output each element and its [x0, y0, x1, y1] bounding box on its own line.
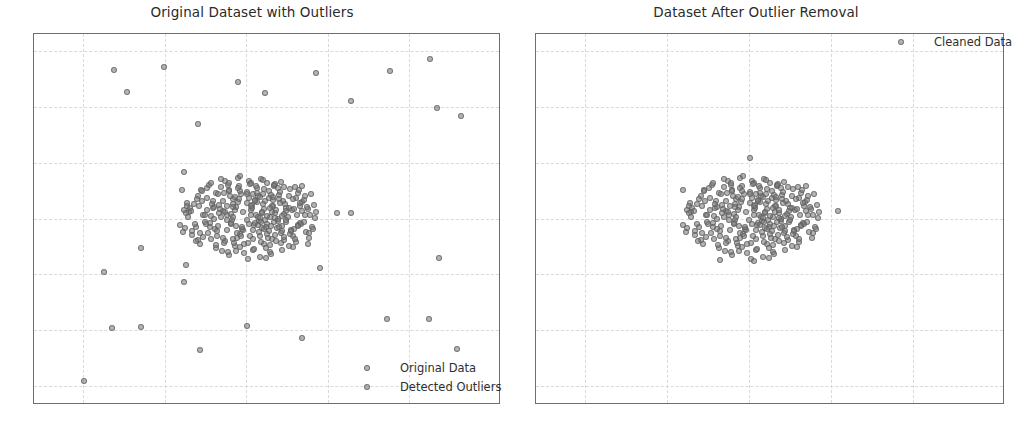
data-point [224, 227, 230, 233]
y-axis-tick-mark [33, 330, 34, 331]
data-point [736, 223, 742, 229]
y-axis-tick-mark [33, 162, 34, 163]
data-point [304, 204, 310, 210]
y-axis-tick-mark [535, 106, 536, 107]
x-axis-tick-label: −2 [156, 403, 173, 404]
page-title: Original Dataset with Outliers [0, 4, 504, 20]
gridline-horizontal [536, 107, 1003, 108]
data-point [271, 219, 277, 225]
data-point [763, 177, 769, 183]
plot-area-original: 6420−2−4−6−4−2024 [33, 33, 500, 404]
data-point [292, 236, 298, 242]
data-point [272, 232, 278, 238]
data-point [213, 242, 219, 248]
data-point [815, 215, 821, 221]
data-point [774, 182, 780, 188]
data-point [199, 188, 205, 194]
data-point [775, 232, 781, 238]
data-point [233, 223, 239, 229]
data-point [348, 210, 354, 216]
data-point [181, 279, 187, 285]
data-point [704, 212, 710, 218]
data-point [111, 67, 117, 73]
data-point [434, 105, 440, 111]
data-point [684, 225, 690, 231]
data-point [281, 184, 287, 190]
data-point [729, 188, 735, 194]
x-axis-tick-mark [409, 403, 410, 404]
x-axis-tick-mark [327, 403, 328, 404]
data-point [197, 230, 203, 236]
data-point [246, 221, 252, 227]
data-point [253, 183, 259, 189]
data-point [747, 200, 753, 206]
data-point [426, 316, 432, 322]
data-point [281, 234, 287, 240]
data-point [262, 90, 268, 96]
data-point [279, 247, 285, 253]
data-point [225, 249, 231, 255]
data-point [721, 184, 727, 190]
data-point [761, 219, 767, 225]
data-point [807, 204, 813, 210]
data-point [811, 191, 817, 197]
data-point [226, 180, 232, 186]
data-point [226, 188, 232, 194]
data-point [182, 225, 188, 231]
data-point [719, 210, 725, 216]
data-point [245, 256, 251, 262]
data-point [727, 227, 733, 233]
data-point [711, 236, 717, 242]
data-point [800, 200, 806, 206]
data-point [754, 246, 760, 252]
data-point [277, 200, 283, 206]
data-point [290, 196, 296, 202]
data-point [751, 212, 757, 218]
data-point [384, 316, 390, 322]
data-point [721, 176, 727, 182]
legend-label: Original Data [400, 361, 476, 375]
data-point [699, 230, 705, 236]
data-point [161, 64, 167, 70]
data-point [794, 206, 800, 212]
data-point [743, 209, 749, 215]
gridline-horizontal [34, 107, 499, 108]
data-point [705, 221, 711, 227]
data-point [737, 185, 743, 191]
data-point [436, 255, 442, 261]
data-point [714, 216, 720, 222]
data-point [742, 224, 748, 230]
data-point [181, 169, 187, 175]
data-point [258, 239, 264, 245]
data-point [278, 240, 284, 246]
data-point [312, 215, 318, 221]
x-axis-tick-label: 0 [242, 403, 249, 404]
page-title-secondary: Dataset After Outlier Removal [504, 4, 1008, 20]
data-point [248, 212, 254, 218]
data-point [299, 335, 305, 341]
data-point [251, 246, 257, 252]
data-point [835, 208, 841, 214]
data-point [779, 224, 785, 230]
data-point [215, 191, 221, 197]
y-axis-tick-mark [535, 162, 536, 163]
data-point [694, 201, 700, 207]
y-axis-tick-mark [535, 274, 536, 275]
y-axis-tick-mark [33, 50, 34, 51]
data-point [715, 242, 721, 248]
data-point [762, 209, 768, 215]
data-point [188, 208, 194, 214]
data-point [235, 185, 241, 191]
data-point [311, 202, 317, 208]
x-axis-tick-label: 4 [909, 403, 916, 404]
data-point [692, 232, 698, 238]
data-point [240, 209, 246, 215]
data-point [735, 194, 741, 200]
y-axis-tick-mark [535, 386, 536, 387]
gridline-horizontal [536, 274, 1003, 275]
data-point [753, 191, 759, 197]
data-point [258, 219, 264, 225]
data-point [208, 180, 214, 186]
data-point [257, 254, 263, 260]
